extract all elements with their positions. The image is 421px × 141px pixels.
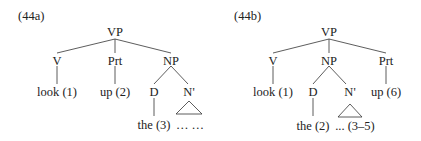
leaf-up: up (2)	[100, 86, 130, 99]
node-nbar: N'	[183, 86, 194, 99]
node-np: NP	[163, 55, 179, 68]
leaf-the: the (3)	[138, 119, 171, 132]
node-vp: VP	[321, 26, 337, 39]
leaf-look: look (1)	[37, 86, 77, 99]
leaf-the: the (2)	[297, 120, 330, 133]
node-prt: Prt	[108, 55, 123, 68]
node-vp: VP	[107, 26, 123, 39]
node-nbar: N'	[344, 86, 355, 99]
example-label: (44a)	[18, 10, 44, 23]
leaf-up: up (6)	[371, 86, 401, 99]
node-np: NP	[321, 55, 337, 68]
example-label: (44b)	[234, 10, 261, 23]
node-prt: Prt	[379, 55, 394, 68]
node-d: D	[149, 86, 158, 99]
node-d: D	[308, 86, 317, 99]
leaf-rest: ... (3–5)	[335, 120, 375, 133]
leaf-rest: … …	[176, 119, 204, 132]
node-v: V	[52, 55, 61, 68]
leaf-look: look (1)	[253, 86, 293, 99]
node-v: V	[268, 55, 277, 68]
